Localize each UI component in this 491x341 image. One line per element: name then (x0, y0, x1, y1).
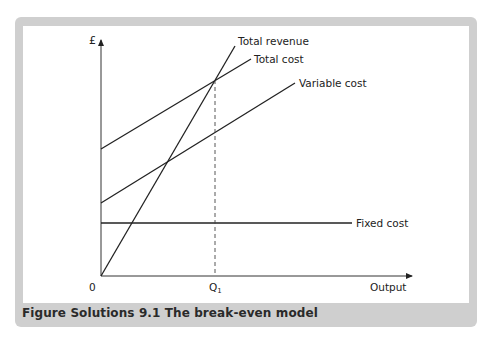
total-cost-label: Total cost (254, 53, 304, 65)
x-axis-label: Output (370, 281, 406, 293)
break-even-chart (0, 0, 491, 341)
total-revenue-label: Total revenue (238, 35, 309, 47)
y-axis-label: £ (89, 34, 96, 47)
variable-cost-line (101, 83, 295, 203)
origin-label: 0 (89, 281, 96, 293)
fixed-cost-label: Fixed cost (356, 217, 408, 229)
q1-label: Q1 (209, 281, 222, 295)
q-subscript: 1 (217, 287, 221, 295)
figure-caption: Figure Solutions 9.1 The break-even mode… (22, 306, 318, 320)
total-cost-line (101, 59, 251, 149)
variable-cost-label: Variable cost (299, 77, 367, 89)
